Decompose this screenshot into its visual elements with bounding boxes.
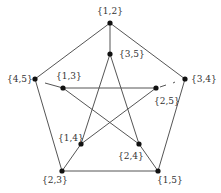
node-13: [60, 85, 65, 90]
node-label-45: {4,5}: [7, 74, 33, 84]
edge-34-15: [158, 79, 185, 171]
node-label-14: {1,4}: [58, 133, 84, 143]
node-label-25: {2,5}: [154, 96, 180, 106]
edge-45-23: [35, 79, 62, 171]
edge-25-14: [81, 88, 156, 144]
node-label-34: {3,4}: [191, 74, 217, 84]
node-label-15: {1,5}: [157, 175, 183, 185]
edge-partial-45-13: [45, 83, 63, 88]
node-12: [107, 20, 112, 25]
node-label-13: {1,3}: [56, 71, 82, 81]
edge-35-14: [81, 54, 110, 144]
node-35: [107, 51, 112, 56]
petersen-graph: {1,2}{3,5}{4,5}{1,3}{3,4}{2,5}{1,4}{2,4}…: [0, 0, 221, 193]
node-15: [155, 168, 160, 173]
node-label-24: {2,4}: [118, 151, 144, 161]
node-45: [32, 76, 37, 81]
edge-partial-34-25: [173, 82, 175, 83]
labels-group: {1,2}{3,5}{4,5}{1,3}{3,4}{2,5}{1,4}{2,4}…: [7, 6, 217, 185]
node-label-23: {2,3}: [42, 175, 68, 185]
edge-35-24: [110, 54, 139, 144]
node-23: [59, 168, 64, 173]
node-34: [182, 76, 187, 81]
node-25: [153, 85, 158, 90]
edge-partial-25-34: [160, 85, 166, 87]
node-24: [136, 141, 141, 146]
node-label-12: {1,2}: [97, 6, 123, 16]
node-label-35: {3,5}: [119, 49, 145, 59]
edge-23-14: [62, 144, 81, 171]
